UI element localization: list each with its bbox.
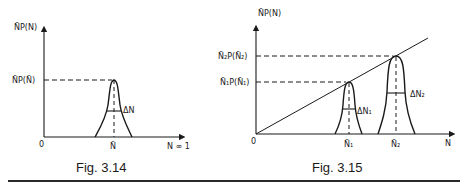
width-label: ΔN — [123, 106, 134, 115]
x-axis-label: N — [445, 139, 451, 148]
peak-1-height-label: N̄₁P(N̄₁) — [220, 77, 249, 87]
figure-3-15: N̄P(N) N̄₂P(N̄₂) N̄₁P(N̄₁) 0 N̄₁ N̄₂ N Δ… — [218, 8, 452, 175]
origin-label: 0 — [39, 140, 44, 149]
bottom-rule — [8, 180, 460, 182]
figure-3-14: N̄P(N) N̄P(N̄) 0 N̄ N ∞ 1 ΔN Fig. 3.14 — [12, 22, 190, 175]
origin-label: 0 — [251, 137, 256, 146]
y-axis-label: N̄P(N) — [14, 22, 37, 32]
peak-height-label: N̄P(N̄) — [12, 75, 35, 85]
figure-caption: Fig. 3.15 — [312, 160, 363, 175]
figure-caption: Fig. 3.14 — [76, 160, 127, 175]
x-axis-label: N ∞ 1 — [167, 142, 190, 151]
peak-position-label: N̄ — [110, 141, 116, 151]
width-2-label: ΔN₂ — [410, 90, 425, 99]
peak-2-position-label: N̄₂ — [391, 139, 400, 149]
width-1-label: ΔN₁ — [357, 107, 372, 116]
figure-canvas: N̄P(N) N̄P(N̄) 0 N̄ N ∞ 1 ΔN Fig. 3.14 N… — [0, 0, 470, 193]
peak-1-position-label: N̄₁ — [344, 139, 353, 149]
peak-2-height-label: N̄₂P(N̄₂) — [218, 51, 247, 61]
y-axis-label: N̄P(N) — [258, 8, 281, 18]
linear-envelope — [256, 38, 428, 134]
